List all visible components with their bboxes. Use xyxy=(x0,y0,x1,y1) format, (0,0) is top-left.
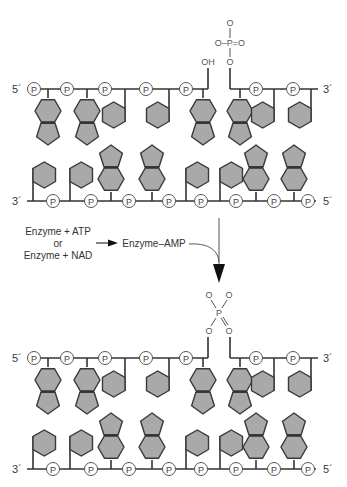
phosphate-icon: P xyxy=(61,83,74,96)
bottom-3prime-label: 3´ xyxy=(12,463,22,475)
phosphate-icon: P xyxy=(85,195,98,208)
svg-text:P: P xyxy=(88,197,94,207)
top-5prime-label: 5´ xyxy=(12,83,22,95)
reaction-line-atp: Enzyme + ATP xyxy=(25,226,91,237)
phosphate-icon: P xyxy=(250,352,263,365)
top-3prime-label: 3´ xyxy=(323,352,333,364)
phosphate-icon: P xyxy=(85,463,98,476)
phosphate-icon: P xyxy=(302,463,315,476)
svg-text:P: P xyxy=(166,465,172,475)
purine-base-icon xyxy=(35,100,61,145)
svg-text:P: P xyxy=(233,465,239,475)
phosphate-icon: P xyxy=(28,83,41,96)
pyrimidine-base-icon xyxy=(147,371,170,397)
bottom-5prime-label: 5´ xyxy=(323,195,333,207)
phosphate-icon: P xyxy=(268,195,281,208)
sealed-o-bottom-left: O xyxy=(205,326,212,336)
phosphate-icon: P xyxy=(99,352,112,365)
svg-text:P: P xyxy=(290,85,296,95)
purine-base-icon xyxy=(190,369,216,414)
pyrimidine-base-icon xyxy=(220,430,243,456)
purine-base-icon xyxy=(243,413,269,458)
purine-base-icon xyxy=(139,413,165,458)
reaction-product-enzyme-amp: Enzyme–AMP xyxy=(122,238,186,249)
svg-text:P: P xyxy=(290,354,296,364)
reaction-scheme: Enzyme + ATP or Enzyme + NAD Enzyme–AMP xyxy=(24,218,225,283)
reaction-line-nad: Enzyme + NAD xyxy=(24,250,93,261)
svg-text:P: P xyxy=(126,465,132,475)
svg-text:P: P xyxy=(253,354,259,364)
svg-text:P: P xyxy=(166,197,172,207)
pyrimidine-base-icon xyxy=(103,371,126,397)
phosphate-icon: P xyxy=(268,463,281,476)
svg-text:P: P xyxy=(198,197,204,207)
pyrimidine-base-icon xyxy=(70,162,93,188)
svg-text:P: P xyxy=(253,85,259,95)
purine-base-icon xyxy=(98,413,124,458)
phosphate-icon: P xyxy=(163,195,176,208)
sealed-o-top-right: O xyxy=(225,290,232,300)
svg-text:P: P xyxy=(31,354,37,364)
purine-base-icon xyxy=(227,369,253,414)
pyrimidine-base-icon xyxy=(147,102,170,128)
svg-text:P: P xyxy=(271,197,277,207)
svg-text:P: P xyxy=(198,465,204,475)
svg-text:P: P xyxy=(102,354,108,364)
phosphate-icon: P xyxy=(163,463,176,476)
panel-before-ligation: 5´3´PPPPPPP3´5´PPPPPPPPOHOO–P=OO xyxy=(12,18,333,208)
phosphate-icon: P xyxy=(180,83,193,96)
panel-after-ligation: 5´3´PPPPPPP3´5´PPPPPPPPOOPOO xyxy=(12,290,333,476)
phosphate-icon: P xyxy=(250,83,263,96)
phosphate-icon: P xyxy=(61,352,74,365)
svg-text:P: P xyxy=(305,465,311,475)
svg-text:P: P xyxy=(31,85,37,95)
sealed-p-center: P xyxy=(216,308,222,318)
top-5prime-label: 5´ xyxy=(12,352,22,364)
phosphate-icon: P xyxy=(47,195,60,208)
phosphate-icon: P xyxy=(230,195,243,208)
phosphate-icon: P xyxy=(302,195,315,208)
pyrimidine-base-icon xyxy=(220,162,243,188)
pyrimidine-base-icon xyxy=(33,430,56,456)
phosphate-icon: P xyxy=(230,463,243,476)
svg-text:P: P xyxy=(126,197,132,207)
svg-text:P: P xyxy=(143,85,149,95)
purine-base-icon xyxy=(139,145,165,190)
pyrimidine-base-icon xyxy=(70,430,93,456)
purine-base-icon xyxy=(190,100,216,145)
purine-base-icon xyxy=(227,100,253,145)
phosphate-icon: P xyxy=(195,463,208,476)
svg-text:P: P xyxy=(50,197,56,207)
phosphate-group-label: O–P=O xyxy=(215,38,245,48)
dna-ligase-diagram: 5´3´PPPPPPP3´5´PPPPPPPPOHOO–P=OO Enzyme … xyxy=(0,0,347,487)
pyrimidine-base-icon xyxy=(252,102,275,128)
pyrimidine-base-icon xyxy=(186,162,209,188)
svg-text:P: P xyxy=(50,465,56,475)
phosphate-icon: P xyxy=(287,83,300,96)
pyrimidine-base-icon xyxy=(252,371,275,397)
purine-base-icon xyxy=(281,145,307,190)
phosphate-icon: P xyxy=(195,195,208,208)
purine-base-icon xyxy=(98,145,124,190)
svg-text:P: P xyxy=(102,85,108,95)
purine-base-icon xyxy=(74,100,100,145)
purine-base-icon xyxy=(74,369,100,414)
svg-text:P: P xyxy=(305,197,311,207)
pyrimidine-base-icon xyxy=(289,371,312,397)
svg-text:P: P xyxy=(143,354,149,364)
svg-text:P: P xyxy=(64,354,70,364)
curved-connector xyxy=(189,244,219,262)
svg-text:P: P xyxy=(271,465,277,475)
reaction-line-or: or xyxy=(54,238,64,249)
pyrimidine-base-icon xyxy=(33,162,56,188)
pyrimidine-base-icon xyxy=(186,430,209,456)
phosphate-icon: P xyxy=(123,195,136,208)
phosphate-icon: P xyxy=(287,352,300,365)
phosphate-icon: P xyxy=(123,463,136,476)
top-3prime-label: 3´ xyxy=(323,83,333,95)
purine-base-icon xyxy=(281,413,307,458)
svg-text:P: P xyxy=(88,465,94,475)
phosphate-icon: P xyxy=(28,352,41,365)
phosphate-icon: P xyxy=(180,352,193,365)
sealed-o-bottom-right: O xyxy=(225,326,232,336)
